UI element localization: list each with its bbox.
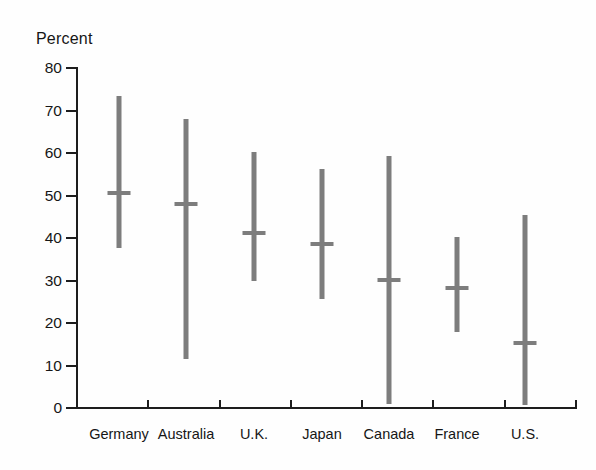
median-marker [108,191,131,195]
y-axis-tick-label: 10 [45,358,62,374]
category-label: Australia [158,427,214,442]
range-bar [320,169,325,299]
y-axis-tick [66,195,78,197]
y-axis-tick [66,237,78,239]
category-label: Canada [364,427,415,442]
x-axis-tick [219,400,221,409]
y-axis-tick-label: 40 [45,230,62,246]
y-axis-tick [66,365,78,367]
median-marker [378,278,401,282]
y-axis-tick [66,407,78,409]
range-bar [523,215,528,405]
category-label: Germany [89,427,149,442]
category-label: Japan [302,427,342,442]
range-bar [184,119,189,359]
y-axis-tick-label: 80 [45,60,62,76]
y-axis-tick [66,322,78,324]
median-marker [514,341,537,345]
x-axis-tick [575,400,577,409]
y-axis-tick [66,110,78,112]
plot-area: 01020304050607080 GermanyAustraliaU.K.Ja… [0,0,596,470]
x-axis-tick [504,400,506,409]
x-axis-tick [290,400,292,409]
y-axis-tick-label: 60 [45,145,62,161]
median-marker [243,231,266,235]
median-marker [446,286,469,290]
median-marker [175,202,198,206]
median-marker [311,242,334,246]
category-label: France [434,427,479,442]
x-axis-tick [147,400,149,409]
y-axis-tick-label: 20 [45,315,62,331]
y-axis-tick-label: 70 [45,103,62,119]
range-bar [455,237,460,332]
x-axis-tick [361,400,363,409]
x-axis-tick [432,400,434,409]
y-axis-tick-label: 0 [53,400,62,416]
y-axis-tick-label: 30 [45,273,62,289]
y-axis-tick [66,152,78,154]
category-label: U.K. [240,427,268,442]
y-axis-tick [66,67,78,69]
range-bar [252,152,257,281]
range-chart: Percent 01020304050607080 GermanyAustral… [0,0,596,470]
range-bar [117,96,122,248]
x-axis-line [76,407,576,409]
category-label: U.S. [511,427,539,442]
y-axis-tick-label: 50 [45,188,62,204]
y-axis-tick [66,280,78,282]
